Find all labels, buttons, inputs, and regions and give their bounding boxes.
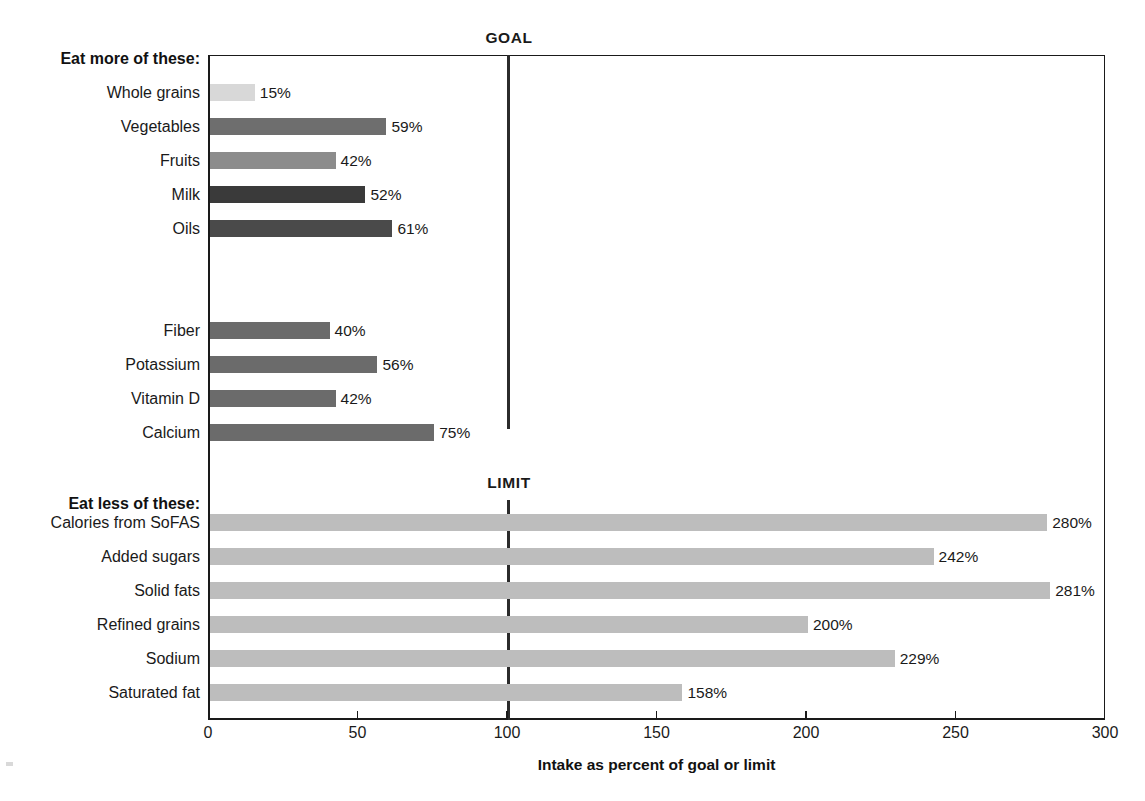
x-axis-tick-label: 250 bbox=[942, 724, 969, 742]
x-axis-title: Intake as percent of goal or limit bbox=[208, 756, 1105, 774]
bar-row: Added sugars242% bbox=[0, 546, 1145, 567]
bar-row: Fruits42% bbox=[0, 150, 1145, 171]
bar bbox=[210, 684, 682, 701]
bar-value-label: 229% bbox=[900, 648, 940, 669]
bar-category-label: Whole grains bbox=[0, 82, 200, 103]
bar-category-label: Calcium bbox=[0, 422, 200, 443]
x-axis-tick bbox=[656, 711, 658, 720]
bar-value-label: 42% bbox=[341, 388, 372, 409]
bar-value-label: 52% bbox=[370, 184, 401, 205]
bar-row: Milk52% bbox=[0, 184, 1145, 205]
x-axis-tick-label: 200 bbox=[793, 724, 820, 742]
x-axis-tick-label: 50 bbox=[349, 724, 367, 742]
bar-category-label: Calories from SoFAS bbox=[0, 512, 200, 533]
bar-category-label: Sodium bbox=[0, 648, 200, 669]
bar bbox=[210, 616, 808, 633]
bar bbox=[210, 548, 934, 565]
bar bbox=[210, 152, 336, 169]
goal-line-label: GOAL bbox=[485, 29, 532, 47]
x-axis-tick-label: 150 bbox=[643, 724, 670, 742]
bar-category-label: Potassium bbox=[0, 354, 200, 375]
bar-row: Calories from SoFAS280% bbox=[0, 512, 1145, 533]
bar bbox=[210, 514, 1047, 531]
x-axis-tick-label: 0 bbox=[204, 724, 213, 742]
bar-value-label: 59% bbox=[391, 116, 422, 137]
section-header-eat-less: Eat less of these: bbox=[0, 495, 200, 513]
bar-value-label: 242% bbox=[939, 546, 979, 567]
bar-category-label: Oils bbox=[0, 218, 200, 239]
bar bbox=[210, 84, 255, 101]
x-axis-tick-label: 300 bbox=[1092, 724, 1119, 742]
bar bbox=[210, 582, 1050, 599]
scan-artifact-speck bbox=[6, 762, 13, 766]
bar bbox=[210, 356, 377, 373]
bar-row: Calcium75% bbox=[0, 422, 1145, 443]
bar-row: Oils61% bbox=[0, 218, 1145, 239]
bar-category-label: Solid fats bbox=[0, 580, 200, 601]
x-axis-tick bbox=[955, 711, 957, 720]
bar-category-label: Vitamin D bbox=[0, 388, 200, 409]
bar-row: Refined grains200% bbox=[0, 614, 1145, 635]
bar-row: Sodium229% bbox=[0, 648, 1145, 669]
bar-category-label: Saturated fat bbox=[0, 682, 200, 703]
x-axis-tick bbox=[506, 711, 508, 720]
bar bbox=[210, 390, 336, 407]
bar bbox=[210, 118, 386, 135]
bar-value-label: 75% bbox=[439, 422, 470, 443]
bar bbox=[210, 650, 895, 667]
chart-canvas: GOAL LIMIT Eat more of these: Eat less o… bbox=[0, 0, 1145, 801]
bar-row: Vegetables59% bbox=[0, 116, 1145, 137]
bar-value-label: 42% bbox=[341, 150, 372, 171]
bar-value-label: 280% bbox=[1052, 512, 1092, 533]
bar bbox=[210, 322, 330, 339]
bar-row: Vitamin D42% bbox=[0, 388, 1145, 409]
x-axis-tick bbox=[357, 711, 359, 720]
bar-category-label: Milk bbox=[0, 184, 200, 205]
section-header-eat-more: Eat more of these: bbox=[0, 50, 200, 68]
bar-category-label: Fiber bbox=[0, 320, 200, 341]
bar-row: Whole grains15% bbox=[0, 82, 1145, 103]
bar-category-label: Added sugars bbox=[0, 546, 200, 567]
bar-row: Saturated fat158% bbox=[0, 682, 1145, 703]
bar-category-label: Refined grains bbox=[0, 614, 200, 635]
bar-row: Fiber40% bbox=[0, 320, 1145, 341]
bar-value-label: 158% bbox=[687, 682, 727, 703]
bar-value-label: 61% bbox=[397, 218, 428, 239]
bar-value-label: 15% bbox=[260, 82, 291, 103]
bar bbox=[210, 186, 365, 203]
bar-row: Potassium56% bbox=[0, 354, 1145, 375]
bar bbox=[210, 220, 392, 237]
limit-line-label: LIMIT bbox=[487, 474, 530, 492]
bar-row: Solid fats281% bbox=[0, 580, 1145, 601]
bar-category-label: Fruits bbox=[0, 150, 200, 171]
x-axis-tick-label: 100 bbox=[494, 724, 521, 742]
x-axis-tick bbox=[805, 711, 807, 720]
bar-value-label: 40% bbox=[335, 320, 366, 341]
bar-category-label: Vegetables bbox=[0, 116, 200, 137]
bar-value-label: 281% bbox=[1055, 580, 1095, 601]
bar bbox=[210, 424, 434, 441]
bar-value-label: 200% bbox=[813, 614, 853, 635]
bar-value-label: 56% bbox=[382, 354, 413, 375]
